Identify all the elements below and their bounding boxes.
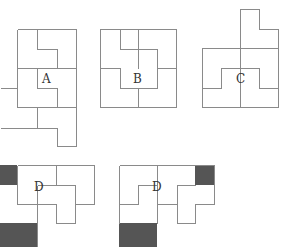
option-label-d-1: D xyxy=(34,181,44,193)
filled-cell xyxy=(195,165,214,185)
figure-d-1 xyxy=(0,165,95,247)
figure-c xyxy=(203,10,279,108)
filled-cell xyxy=(119,223,157,247)
figure-a xyxy=(1,30,77,147)
option-label-c: C xyxy=(236,73,245,85)
figure-b xyxy=(101,30,177,108)
filled-cell xyxy=(0,223,37,247)
option-label-d-2: D xyxy=(152,181,162,193)
filled-cell xyxy=(0,165,17,185)
option-label-a: A xyxy=(42,73,51,85)
figure-d-2 xyxy=(119,165,215,247)
option-label-b: B xyxy=(133,73,142,85)
puzzle-diagram: A B C D D xyxy=(0,0,286,247)
